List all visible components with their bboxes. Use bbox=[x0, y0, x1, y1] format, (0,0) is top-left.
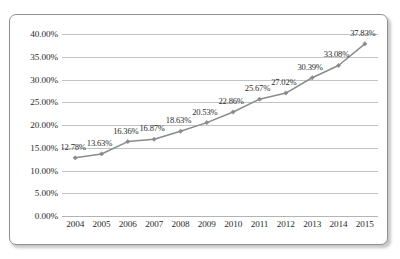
x-axis-tick-label-2015: 2015 bbox=[356, 219, 374, 229]
data-label-2006: 16.36% bbox=[113, 126, 138, 136]
chart-container: 0.00%5.00%10.00%15.00%20.00%25.00%30.00%… bbox=[0, 0, 400, 259]
y-axis-tick-label: 5.00% bbox=[0, 188, 58, 198]
y-axis-tick-label: 0.00% bbox=[0, 211, 58, 221]
x-axis-tick-label-2009: 2009 bbox=[198, 219, 216, 229]
data-label-2008: 18.63% bbox=[166, 115, 191, 125]
x-axis-tick-label-2013: 2013 bbox=[303, 219, 321, 229]
y-axis-tick-label: 15.00% bbox=[0, 143, 58, 153]
data-label-2012: 27.02% bbox=[271, 77, 296, 87]
y-axis-tick-label: 10.00% bbox=[0, 166, 58, 176]
x-axis-tick-label-2012: 2012 bbox=[277, 219, 295, 229]
data-label-2007: 16.87% bbox=[140, 123, 165, 133]
data-label-2011: 25.67% bbox=[245, 83, 270, 93]
data-label-2013: 30.39% bbox=[298, 62, 323, 72]
x-axis-tick-label-2006: 2006 bbox=[119, 219, 137, 229]
data-point-labels: 12.78%13.63%16.36%16.87%18.63%20.53%22.8… bbox=[62, 34, 378, 216]
data-label-2015: 37.83% bbox=[350, 28, 375, 38]
x-axis-tick-label-2010: 2010 bbox=[224, 219, 242, 229]
x-axis-tick-labels: 2004200520062007200820092010201120122013… bbox=[62, 219, 378, 237]
data-label-2010: 22.86% bbox=[219, 96, 244, 106]
y-axis-tick-label: 30.00% bbox=[0, 75, 58, 85]
data-label-2014: 33.08% bbox=[324, 49, 349, 59]
x-axis-tick-label-2014: 2014 bbox=[330, 219, 348, 229]
gridline-0.00 bbox=[62, 216, 378, 217]
data-label-2009: 20.53% bbox=[192, 107, 217, 117]
y-axis-tick-label: 35.00% bbox=[0, 52, 58, 62]
y-axis-tick-label: 40.00% bbox=[0, 29, 58, 39]
x-axis-tick-label-2004: 2004 bbox=[66, 219, 84, 229]
x-axis-tick-label-2005: 2005 bbox=[93, 219, 111, 229]
x-axis-tick-label-2007: 2007 bbox=[145, 219, 163, 229]
x-axis-tick-label-2011: 2011 bbox=[251, 219, 269, 229]
y-axis-tick-label: 25.00% bbox=[0, 97, 58, 107]
data-label-2004: 12.78% bbox=[61, 142, 86, 152]
x-axis-tick-label-2008: 2008 bbox=[172, 219, 190, 229]
y-axis-tick-labels: 0.00%5.00%10.00%15.00%20.00%25.00%30.00%… bbox=[0, 34, 58, 216]
y-axis-tick-label: 20.00% bbox=[0, 120, 58, 130]
data-label-2005: 13.63% bbox=[87, 138, 112, 148]
